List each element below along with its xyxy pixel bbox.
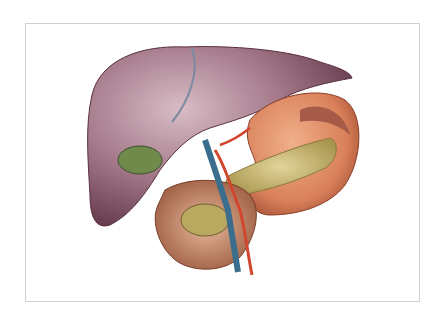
anatomy-illustration xyxy=(0,0,448,320)
duodenum xyxy=(155,180,256,269)
gallbladder xyxy=(118,146,162,174)
